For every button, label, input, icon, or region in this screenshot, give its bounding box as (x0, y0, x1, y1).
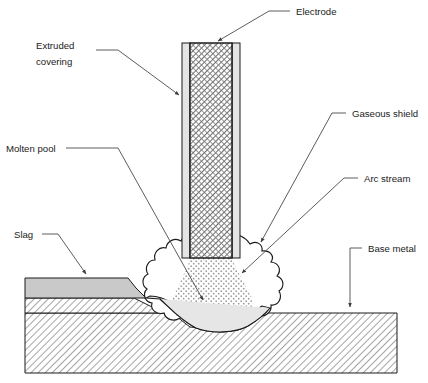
electrode-assembly (182, 43, 240, 258)
diagram-canvas: Electrode Extruded covering Gaseous shie… (0, 0, 428, 383)
label-extruded-covering-line2: covering (36, 56, 72, 67)
label-arc-stream: Arc stream (364, 173, 410, 184)
weld-bead-layer (25, 298, 166, 313)
extruded-covering-right (232, 43, 240, 258)
label-electrode: Electrode (296, 6, 337, 17)
extruded-covering-left (182, 43, 190, 258)
leader-extruded-covering (96, 50, 179, 95)
leader-electrode (218, 11, 290, 41)
slag-layer (25, 278, 146, 298)
leader-base-metal (350, 248, 362, 307)
welding-process-diagram: Electrode Extruded covering Gaseous shie… (0, 0, 428, 383)
label-slag: Slag (14, 229, 33, 240)
label-molten-pool: Molten pool (6, 143, 56, 154)
leader-gaseous-shield (261, 113, 346, 242)
label-base-metal: Base metal (368, 243, 416, 254)
label-gaseous-shield: Gaseous shield (352, 108, 418, 119)
leader-slag (42, 234, 86, 274)
label-extruded-covering-line1: Extruded (36, 40, 74, 51)
